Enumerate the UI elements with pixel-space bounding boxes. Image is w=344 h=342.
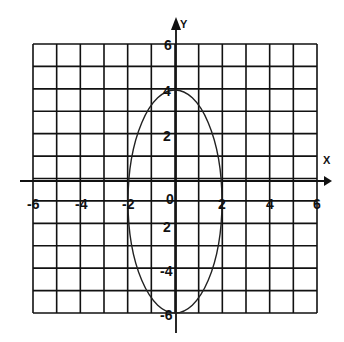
y-tick-label: 2 bbox=[163, 128, 171, 144]
x-tick-label: 4 bbox=[266, 196, 274, 212]
y-tick-label: 6 bbox=[164, 37, 172, 53]
y-tick-label: 4 bbox=[163, 83, 171, 99]
coordinate-plane: Y X -6 -4 -2 2 4 6 6 4 2 0 2 -4 -6 bbox=[0, 0, 344, 342]
axes bbox=[20, 28, 326, 333]
x-axis-label: X bbox=[323, 154, 331, 166]
origin-label: 0 bbox=[166, 191, 174, 207]
x-tick-label: -2 bbox=[122, 196, 135, 212]
y-tick-label: -4 bbox=[160, 263, 173, 279]
y-axis-label: Y bbox=[180, 18, 188, 30]
y-tick-label: 2 bbox=[163, 219, 171, 235]
x-axis-arrow-icon bbox=[324, 176, 332, 186]
x-tick-label: 2 bbox=[218, 196, 226, 212]
x-tick-label: 6 bbox=[313, 196, 321, 212]
grid bbox=[33, 44, 317, 313]
x-tick-label: -4 bbox=[75, 196, 88, 212]
y-tick-label: -6 bbox=[160, 307, 173, 323]
x-tick-label: -6 bbox=[27, 196, 40, 212]
